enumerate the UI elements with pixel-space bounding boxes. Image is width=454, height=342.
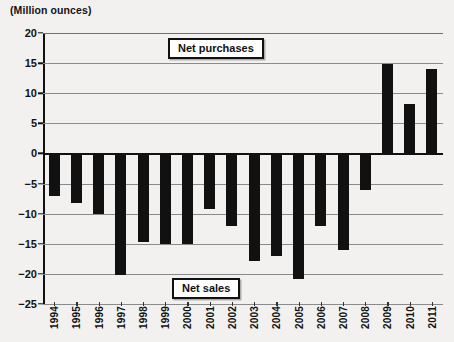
chart-root: (Million ounces) 20151050−5−10−15−20−25 …	[0, 0, 454, 342]
y-tick-label-5: 5	[31, 117, 37, 129]
y-tick-label-10: 10	[25, 87, 37, 99]
bar-2009	[382, 64, 393, 153]
x-axis-label-1995: 1995	[71, 306, 82, 329]
bar-2006	[315, 153, 326, 225]
x-axis-label-1998: 1998	[138, 306, 149, 329]
y-tick-label--15: −15	[18, 238, 37, 250]
bar-2003	[249, 153, 260, 260]
y-tick-label-0: 0	[31, 147, 37, 159]
y-tick-label--20: −20	[18, 268, 37, 280]
y-tick-label--10: −10	[18, 208, 37, 220]
x-axis-label-2009: 2009	[382, 306, 393, 329]
x-axis-label-2007: 2007	[338, 306, 349, 329]
x-axis-label-1994: 1994	[49, 306, 60, 329]
legend-net-purchases: Net purchases	[168, 38, 264, 59]
x-axis-label-2005: 2005	[294, 306, 305, 329]
legend-net-sales: Net sales	[172, 278, 240, 299]
bar-2011	[426, 69, 437, 153]
x-axis-label-2003: 2003	[249, 306, 260, 329]
bar-2002	[226, 153, 237, 225]
y-tick-label--5: −5	[24, 178, 37, 190]
x-axis-label-2010: 2010	[405, 306, 416, 329]
bar-1995	[71, 153, 82, 202]
bar-2007	[338, 153, 349, 249]
x-axis-label-2004: 2004	[271, 306, 282, 329]
x-axis-label-2006: 2006	[316, 306, 327, 329]
x-axis-label-2001: 2001	[205, 306, 216, 329]
bar-1999	[160, 153, 171, 243]
x-axis-label-1999: 1999	[160, 306, 171, 329]
x-axis-label-2008: 2008	[360, 306, 371, 329]
x-axis-label-2000: 2000	[182, 306, 193, 329]
gridline--25	[43, 304, 443, 305]
bar-1997	[115, 153, 126, 275]
bar-1998	[138, 153, 149, 242]
bar-series	[43, 33, 443, 304]
x-axis-label-1996: 1996	[94, 306, 105, 329]
bar-2004	[271, 153, 282, 255]
bar-1996	[93, 153, 104, 213]
y-axis-unit-title: (Million ounces)	[10, 4, 92, 16]
bar-2010	[404, 104, 415, 153]
x-axis-labels: 1994199519961997199819992000200120022003…	[43, 306, 443, 342]
x-axis-label-2011: 2011	[427, 306, 438, 329]
bar-2008	[360, 153, 371, 189]
x-axis-label-2002: 2002	[227, 306, 238, 329]
bar-1994	[49, 153, 60, 195]
y-tick-label--25: −25	[18, 298, 37, 310]
bar-2005	[293, 153, 304, 278]
y-tick-label-20: 20	[25, 27, 37, 39]
plot-area: 20151050−5−10−15−20−25	[43, 33, 443, 304]
y-tick-label-15: 15	[25, 57, 37, 69]
bar-2000	[182, 153, 193, 244]
bar-2001	[204, 153, 215, 209]
x-axis-label-1997: 1997	[116, 306, 127, 329]
